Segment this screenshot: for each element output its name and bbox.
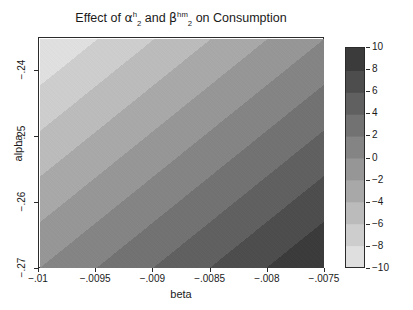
colorbar-tick-mark (366, 224, 370, 225)
y-tick-mark (34, 70, 38, 71)
x-tick-label: −.0075 (294, 273, 354, 284)
x-tick-mark (210, 268, 211, 272)
colorbar-tick-label: 6 (372, 86, 378, 96)
x-tick-mark (267, 268, 268, 272)
plot-area-frame (38, 37, 324, 268)
title-alpha-superscript: h (133, 10, 137, 19)
title-prefix: Effect of (75, 11, 124, 25)
colorbar-tick-mark (366, 113, 370, 114)
colorbar-tick-label: −2 (372, 175, 383, 185)
title-beta-superscript: hm (177, 10, 188, 19)
colorbar-tick-label: 4 (372, 108, 378, 118)
y-tick-label: −.26 (0, 196, 32, 207)
colorbar-tick-label: 8 (372, 64, 378, 74)
colorbar-tick-mark (366, 268, 370, 269)
colorbar-gradient (346, 48, 364, 267)
colorbar-tick-label: −8 (372, 241, 383, 251)
colorbar-tick-mark (366, 180, 370, 181)
y-tick-label: −.24 (0, 64, 32, 75)
colorbar-tick-label: −6 (372, 219, 383, 229)
title-variable-beta: β (169, 10, 177, 25)
colorbar-tick-mark (366, 135, 370, 136)
colorbar-tick-label: 2 (372, 130, 378, 140)
chart-figure: Effect of αh2 and βhm2 on Consumption −.… (0, 0, 413, 310)
chart-title: Effect of αh2 and βhm2 on Consumption (38, 10, 324, 26)
heatmap-surface (40, 39, 324, 268)
x-tick-mark (324, 268, 325, 272)
x-tick-label: −.0095 (65, 273, 125, 284)
colorbar-tick-label: −10 (372, 263, 389, 273)
y-tick-mark (34, 268, 38, 269)
x-tick-label: −.008 (237, 273, 297, 284)
title-variable-alpha: α (124, 10, 132, 25)
x-tick-label: −.009 (122, 273, 182, 284)
colorbar (345, 47, 365, 268)
x-tick-mark (95, 268, 96, 272)
colorbar-tick-mark (366, 158, 370, 159)
colorbar-tick-label: 0 (372, 153, 378, 163)
y-tick-label: −.27 (0, 262, 32, 273)
x-tick-mark (152, 268, 153, 272)
colorbar-tick-label: 10 (372, 42, 383, 52)
x-axis-label: beta (38, 288, 324, 300)
colorbar-tick-label: −4 (372, 197, 383, 207)
y-tick-mark (34, 136, 38, 137)
colorbar-tick-mark (366, 69, 370, 70)
colorbar-tick-mark (366, 202, 370, 203)
title-middle: and (141, 11, 169, 25)
y-tick-mark (34, 202, 38, 203)
colorbar-tick-mark (366, 246, 370, 247)
y-axis-label: alpha (12, 108, 24, 188)
colorbar-tick-mark (366, 91, 370, 92)
colorbar-tick-mark (366, 47, 370, 48)
title-suffix: on Consumption (192, 11, 287, 25)
x-tick-label: −.0085 (180, 273, 240, 284)
heatmap-canvas (40, 39, 324, 268)
x-tick-mark (38, 268, 39, 272)
